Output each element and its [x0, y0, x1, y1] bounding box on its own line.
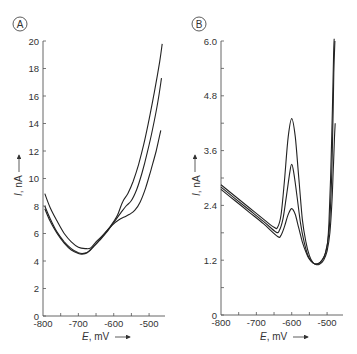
panel-b-x-axis-label-unit: , mV — [267, 331, 288, 342]
panel-a-series-1-line — [45, 44, 162, 249]
panel-b-y-axis-label: I, nA — [191, 175, 202, 196]
panel-b-y-tick-label: 2.4 — [204, 200, 217, 211]
panel-b-series-3-line — [221, 123, 335, 265]
panel-a-x-tick-label: -600 — [104, 318, 123, 329]
panel-a-x-axis-label: E, mV — [82, 331, 110, 342]
panel-b-y-tick-label: 4.8 — [204, 90, 217, 101]
panel-a-x-tick-label: -800 — [33, 318, 52, 329]
panel-b-y-axis-label-unit: , nA — [191, 175, 202, 193]
panel-b-series — [221, 39, 335, 265]
panel-b-x-tick-label: -800 — [211, 317, 230, 328]
panel-a-series-2-line — [45, 78, 162, 253]
panel-a-y-tick-label: 14 — [28, 118, 39, 129]
panel-b-x-tick-label: -600 — [282, 317, 301, 328]
panel-b-y-tick-label: 1.2 — [204, 255, 217, 266]
panel-a-y-tick-label: 2 — [34, 283, 39, 294]
panel-b-x-tick-label: -700 — [247, 317, 266, 328]
panel-a-y-tick-label: 4 — [34, 256, 39, 267]
panel-a-series — [45, 44, 162, 254]
panel-a-series-3-line — [45, 130, 161, 254]
panel-a-y-tick-label: 10 — [28, 173, 39, 184]
panel-b-x-tick-label: -500 — [318, 317, 337, 328]
panel-a-y-axis-label-unit: , nA — [13, 175, 24, 193]
panel-b-axes — [221, 41, 343, 315]
panel-a-y-axis-label: I, nA — [13, 175, 24, 196]
panel-a: A 02468101214161820-800-700-600-500 E, m… — [13, 17, 165, 342]
panel-b-x-axis-label: E, mV — [260, 331, 288, 342]
panel-b-letter-badge: B — [192, 17, 206, 31]
panel-a-y-tick-label: 20 — [28, 36, 39, 47]
panel-b-y-tick-label: 3.6 — [204, 145, 217, 156]
panel-a-x-tick-label: -500 — [140, 318, 159, 329]
panel-b-series-2-line — [221, 41, 335, 264]
figure: A 02468101214161820-800-700-600-500 E, m… — [0, 0, 357, 354]
panel-a-x-tick-label: -700 — [69, 318, 88, 329]
panel-a-y-tick-label: 18 — [28, 63, 39, 74]
panel-a-y-tick-label: 6 — [34, 228, 39, 239]
panel-b-letter: B — [196, 19, 203, 30]
panel-a-y-tick-label: 16 — [28, 91, 39, 102]
panel-a-y-tick-label: 12 — [28, 146, 39, 157]
panel-a-axes — [43, 41, 165, 316]
panel-a-letter: A — [17, 19, 24, 30]
panel-b-ticks: 01.22.43.64.86.0-800-700-600-500 — [204, 36, 337, 329]
panel-b: B 01.22.43.64.86.0-800-700-600-500 E, mV… — [191, 17, 343, 342]
panel-a-letter-badge: A — [13, 17, 27, 31]
panel-b-series-1-line — [221, 39, 334, 264]
panel-b-y-tick-label: 6.0 — [204, 36, 217, 47]
panel-a-x-axis-label-unit: , mV — [89, 331, 110, 342]
panel-a-y-tick-label: 8 — [34, 201, 39, 212]
